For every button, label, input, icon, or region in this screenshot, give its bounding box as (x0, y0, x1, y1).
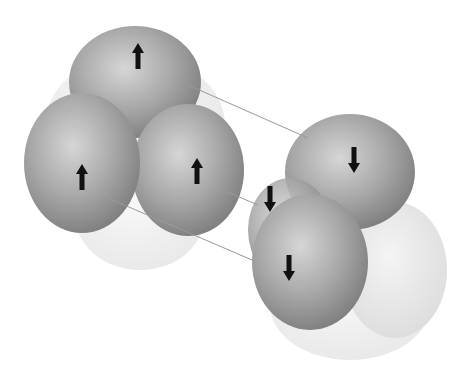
sphere-left (24, 93, 140, 233)
nucleus-spin-diagram (0, 0, 462, 384)
right-cluster (248, 114, 447, 360)
sphere-right (132, 104, 244, 236)
sphere-front (252, 194, 368, 330)
left-cluster (24, 26, 244, 270)
